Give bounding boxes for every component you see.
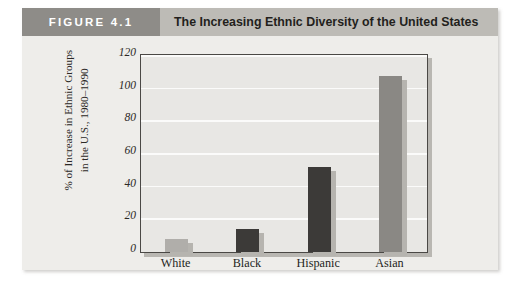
- bar-fill: [236, 229, 259, 252]
- bar: [379, 76, 402, 252]
- y-axis-label-line1: % of Increase in Ethnic Groups: [60, 22, 76, 218]
- bar-fill: [165, 239, 188, 252]
- y-axis-tick-label: 100: [119, 79, 136, 91]
- bar: [308, 167, 331, 252]
- gridline: [141, 55, 427, 57]
- y-axis-label: % of Increase in Ethnic Groups in the U.…: [60, 22, 92, 218]
- x-axis-tick-label: Hispanic: [283, 256, 354, 271]
- y-axis-tick-label: 80: [125, 111, 137, 123]
- plot-area: [140, 54, 428, 253]
- y-axis-tick-label: 20: [125, 209, 137, 221]
- x-axis-labels: WhiteBlackHispanicAsian: [140, 256, 428, 278]
- bar: [165, 239, 188, 252]
- figure-title: The Increasing Ethnic Diversity of the U…: [174, 8, 478, 36]
- x-axis-tick-label: White: [140, 256, 211, 271]
- x-axis-tick-label: Asian: [354, 256, 425, 271]
- y-axis-tick-label: 60: [125, 144, 137, 156]
- y-axis-tick-label: 40: [125, 177, 137, 189]
- figure-header-band: FIGURE 4.1 The Increasing Ethnic Diversi…: [22, 8, 498, 36]
- y-axis-label-line2: in the U.S., 1980–1990: [76, 22, 92, 218]
- y-axis-tick-label: 0: [130, 242, 136, 254]
- y-axis-tick-label: 120: [119, 46, 136, 58]
- bar: [236, 229, 259, 252]
- figure-card: FIGURE 4.1 The Increasing Ethnic Diversi…: [22, 8, 498, 270]
- bar-fill: [379, 76, 402, 252]
- bar-fill: [308, 167, 331, 252]
- x-axis-tick-label: Black: [211, 256, 282, 271]
